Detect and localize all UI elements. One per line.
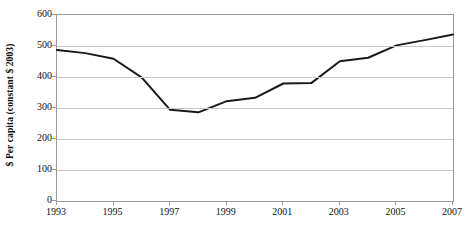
y-axis-tick-labels: 6005004003002001000 (18, 14, 52, 200)
y-tick-label: 400 (18, 71, 52, 81)
gridline (57, 108, 453, 109)
x-tick-mark (226, 201, 227, 205)
x-tick-label: 1995 (90, 206, 136, 218)
gridline (57, 139, 453, 140)
y-tick-mark (52, 14, 56, 15)
y-tick-label: 100 (18, 164, 52, 174)
y-tick-label: 600 (18, 9, 52, 19)
x-tick-label: 2001 (259, 206, 305, 218)
x-tick-mark (452, 201, 453, 205)
y-tick-mark (52, 107, 56, 108)
y-tick-label: 500 (18, 40, 52, 50)
gridline (57, 46, 453, 47)
x-tick-mark (113, 201, 114, 205)
x-tick-mark (395, 201, 396, 205)
y-tick-mark (52, 169, 56, 170)
x-tick-mark (169, 201, 170, 205)
x-tick-label: 1993 (33, 206, 79, 218)
x-tick-label: 1997 (146, 206, 192, 218)
x-tick-label: 2007 (429, 206, 467, 218)
y-tick-label: 0 (18, 195, 52, 205)
plot-inner (57, 15, 453, 201)
x-axis-tick-labels: 19931995199719992001200320052007 (0, 206, 460, 226)
gridline (57, 77, 453, 78)
y-tick-label: 200 (18, 133, 52, 143)
x-tick-mark (282, 201, 283, 205)
y-tick-mark (52, 76, 56, 77)
x-tick-mark (339, 201, 340, 205)
x-tick-label: 2005 (372, 206, 418, 218)
plot-area (56, 14, 454, 202)
y-axis-title-label: $ Per capita (constant $ 2003) (5, 44, 15, 167)
y-axis-title: $ Per capita (constant $ 2003) (0, 0, 20, 210)
y-tick-label: 300 (18, 102, 52, 112)
gridline (57, 170, 453, 171)
y-tick-mark (52, 138, 56, 139)
x-tick-label: 1999 (203, 206, 249, 218)
x-tick-mark (56, 201, 57, 205)
x-tick-label: 2003 (316, 206, 362, 218)
y-tick-mark (52, 45, 56, 46)
